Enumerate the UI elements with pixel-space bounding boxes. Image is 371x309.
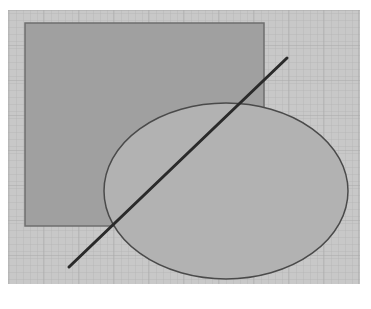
- ellipse-shape[interactable]: [104, 103, 348, 279]
- diagram-canvas: [0, 0, 371, 309]
- shapes-drawing: [0, 0, 371, 309]
